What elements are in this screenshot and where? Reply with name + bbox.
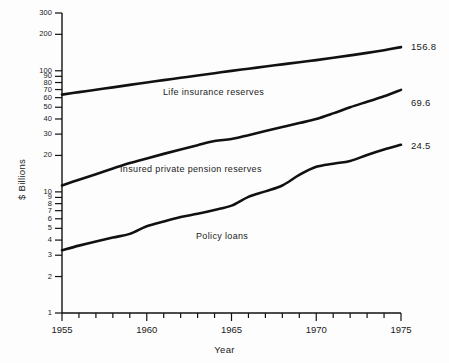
- series-label-life-insurance: Life insurance reserves: [163, 87, 264, 97]
- y-tick-label: 70: [43, 86, 52, 94]
- y-tick-label: 200: [39, 30, 52, 38]
- end-label-life-insurance: 156.8: [411, 41, 436, 52]
- x-tick-label: 1970: [296, 325, 336, 335]
- y-tick-label: 3: [48, 251, 52, 259]
- series-lines: [62, 47, 401, 250]
- end-label-policy-loans: 24.5: [411, 140, 431, 151]
- y-tick-label: 4: [48, 236, 52, 244]
- x-axis-title: Year: [0, 344, 449, 355]
- y-tick-label: 60: [43, 94, 52, 102]
- x-tick-label: 1960: [127, 325, 167, 335]
- y-tick-label: 1: [48, 309, 52, 317]
- y-tick-label: 300: [39, 9, 52, 17]
- chart-plot-area: [0, 0, 449, 363]
- y-tick-label: 100: [39, 67, 52, 75]
- series-label-pension: Insured private pension reserves: [120, 164, 262, 174]
- series-label-policy-loans: Policy loans: [196, 231, 248, 241]
- axis-group: [62, 13, 401, 313]
- y-tick-label: 5: [48, 224, 52, 232]
- y-tick-label: 30: [43, 130, 52, 138]
- y-tick-label: 20: [43, 151, 52, 159]
- x-tick-label: 1975: [381, 325, 421, 335]
- y-tick-label: 40: [43, 115, 52, 123]
- y-tick-label: 2: [48, 273, 52, 281]
- y-axis-title: $ Billions: [16, 159, 27, 200]
- y-tick-label: 6: [48, 215, 52, 223]
- y-tick-label: 50: [43, 103, 52, 111]
- chart-container: 123456789102030405060708090100200300 195…: [0, 0, 449, 363]
- end-label-pension: 69.6: [411, 97, 431, 108]
- y-tick-marks: [55, 13, 62, 313]
- x-tick-marks: [62, 313, 401, 321]
- x-tick-label: 1965: [212, 325, 252, 335]
- y-tick-label: 10: [43, 188, 52, 196]
- y-tick-label: 7: [48, 207, 52, 215]
- x-tick-label: 1955: [42, 325, 82, 335]
